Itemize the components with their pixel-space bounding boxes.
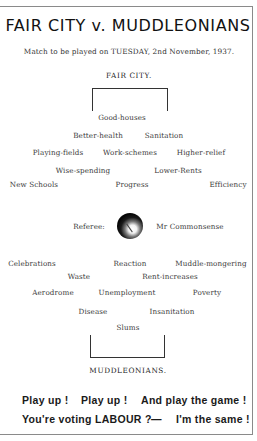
home-team-label: FAIR CITY. xyxy=(106,71,152,80)
away-team-label: MUDDLEONIANS. xyxy=(89,366,166,375)
slogan-line1-part3: And play the game ! xyxy=(141,394,246,406)
slogan-line2-part3: I'm the same ! xyxy=(176,413,250,425)
bottom-goal-bracket xyxy=(90,335,165,358)
player-sanitation: Sanitation xyxy=(145,131,183,140)
player-good-houses: Good-houses xyxy=(98,113,146,122)
match-date-subtitle: Match to be played on TUESDAY, 2nd Novem… xyxy=(24,47,234,56)
player-insanitation: Insanitation xyxy=(150,307,195,316)
player-slums: Slums xyxy=(117,323,140,332)
player-muddle-mongering: Muddle-mongering xyxy=(175,259,246,268)
slogan-line2-part1: You're voting LABOUR ? xyxy=(22,413,152,425)
player-lower-rents: Lower-Rents xyxy=(154,166,201,175)
player-work-schemes: Work-schemes xyxy=(103,148,157,157)
player-new-schools: New Schools xyxy=(10,180,58,189)
player-unemployment: Unemployment xyxy=(99,288,156,297)
player-rent-increases: Rent-increases xyxy=(142,272,198,281)
player-playing-fields: Playing-fields xyxy=(33,148,84,157)
player-celebrations: Celebrations xyxy=(8,259,56,268)
player-wise-spending: Wise-spending xyxy=(56,166,111,175)
referee-label: Referee: xyxy=(73,222,105,231)
slogan-line2-dash: — xyxy=(151,413,162,425)
player-disease: Disease xyxy=(79,307,108,316)
player-poverty: Poverty xyxy=(193,288,221,297)
player-efficiency: Efficiency xyxy=(209,180,246,189)
player-higher-relief: Higher-relief xyxy=(177,148,225,157)
player-waste: Waste xyxy=(68,272,90,281)
player-better-health: Better-health xyxy=(73,131,123,140)
poster-title: FAIR CITY v. MUDDLEONIANS xyxy=(5,16,250,35)
player-progress: Progress xyxy=(115,180,148,189)
football-icon xyxy=(117,213,143,239)
referee-name: Mr Commonsense xyxy=(156,222,223,231)
player-aerodrome: Aerodrome xyxy=(32,288,74,297)
slogan-line1-part2: Play up ! xyxy=(81,394,127,406)
slogan-line1-part1: Play up ! xyxy=(22,394,68,406)
top-goal-bracket xyxy=(92,88,168,111)
player-reaction: Reaction xyxy=(114,259,147,268)
